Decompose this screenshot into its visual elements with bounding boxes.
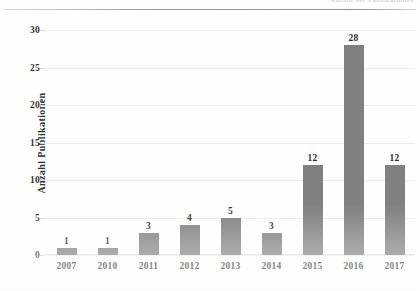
- bar[interactable]: [344, 45, 364, 255]
- x-axis-tick-label: 2015: [292, 261, 333, 271]
- bar[interactable]: [139, 233, 159, 256]
- bar-value-label: 3: [251, 221, 292, 231]
- bar-column[interactable]: 1: [87, 30, 128, 255]
- y-axis-tick-mark: [40, 143, 45, 144]
- x-axis-tick-label: 2010: [87, 261, 128, 271]
- bar[interactable]: [262, 233, 282, 256]
- y-axis-tick-label: 0: [12, 250, 40, 260]
- bar-column[interactable]: 1: [46, 30, 87, 255]
- bar[interactable]: [180, 225, 200, 255]
- y-axis-tick-mark: [40, 180, 45, 181]
- y-axis-tick-mark: [40, 218, 45, 219]
- x-axis-tick-label: 2013: [210, 261, 251, 271]
- bar-value-label: 1: [46, 236, 87, 246]
- y-axis-tick-label: 30: [12, 25, 40, 35]
- y-axis-tick-label: 20: [12, 100, 40, 110]
- bar[interactable]: [98, 248, 118, 256]
- x-axis-tick-label: 2016: [333, 261, 374, 271]
- bar-column[interactable]: 4: [169, 30, 210, 255]
- y-axis-ticks: 051015202530: [8, 30, 40, 255]
- bar-value-label: 1: [87, 236, 128, 246]
- bar-value-label: 4: [169, 213, 210, 223]
- page-header-strip: Anzahl der Publikationen: [0, 0, 420, 8]
- bar-value-label: 3: [128, 221, 169, 231]
- x-axis-tick-label: 2007: [46, 261, 87, 271]
- x-axis-labels: 200720102011201220132014201520162017: [46, 261, 415, 271]
- bar[interactable]: [385, 165, 405, 255]
- bar-value-label: 28: [333, 33, 374, 43]
- cut-off-header-text: Anzahl der Publikationen: [330, 0, 414, 4]
- y-axis-tick-label: 10: [12, 175, 40, 185]
- bar[interactable]: [303, 165, 323, 255]
- x-axis-tick-label: 2014: [251, 261, 292, 271]
- bar-column[interactable]: 28: [333, 30, 374, 255]
- bar-column[interactable]: 12: [292, 30, 333, 255]
- bar[interactable]: [57, 248, 77, 256]
- x-axis-tick-label: 2012: [169, 261, 210, 271]
- bar-value-label: 12: [374, 153, 415, 163]
- bar-value-label: 5: [210, 206, 251, 216]
- gridline: [46, 255, 415, 256]
- y-axis-tick-mark: [40, 30, 45, 31]
- y-axis-tick-label: 25: [12, 63, 40, 73]
- y-axis-tick-mark: [40, 255, 45, 256]
- x-axis-tick-label: 2017: [374, 261, 415, 271]
- y-axis-tick-mark: [40, 105, 45, 106]
- x-axis-tick-label: 2011: [128, 261, 169, 271]
- header-divider-rule: [4, 9, 416, 10]
- bar-column[interactable]: 5: [210, 30, 251, 255]
- plot-area: 113453122812: [46, 30, 415, 255]
- bar-column[interactable]: 12: [374, 30, 415, 255]
- chart-page: Anzahl der Publikationen Anzahl Publikat…: [0, 0, 420, 291]
- bar[interactable]: [221, 218, 241, 256]
- y-axis-tick-mark: [40, 68, 45, 69]
- bar-column[interactable]: 3: [251, 30, 292, 255]
- bar-series: 113453122812: [46, 30, 415, 255]
- bar-column[interactable]: 3: [128, 30, 169, 255]
- bar-chart: Anzahl Publikationen 051015202530 113453…: [0, 14, 420, 291]
- y-axis-tick-label: 15: [12, 138, 40, 148]
- bar-value-label: 12: [292, 153, 333, 163]
- y-axis-tick-label: 5: [12, 213, 40, 223]
